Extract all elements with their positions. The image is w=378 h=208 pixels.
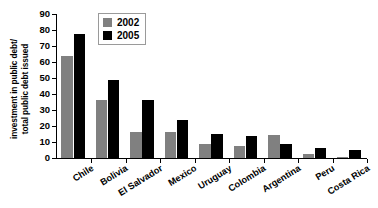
y-tick-label: 90 [22,9,50,19]
x-axis-label-argentina: Argentina [260,163,302,194]
y-tick-label: 70 [22,41,50,51]
y-tick-label: 0 [22,153,50,163]
y-tick-mark [52,46,56,47]
y-tick-mark [52,94,56,95]
x-tick-mark [91,159,92,163]
y-tick-mark [52,30,56,31]
y-tick-mark [52,142,56,143]
legend-item-2002: 2002 [103,16,139,29]
y-tick-mark [52,126,56,127]
bar-2005-el-salvador [142,100,154,158]
y-tick-mark [52,78,56,79]
bar-2002-el-salvador [130,132,142,158]
x-axis-label-chile: Chile [71,163,95,183]
y-tick-label: 80 [22,25,50,35]
bar-2005-costa-rica [349,150,361,158]
bar-2002-argentina [268,135,280,158]
x-tick-mark [333,159,334,163]
x-axis-label-mexico: Mexico [167,163,199,188]
y-tick-label: 40 [22,89,50,99]
legend-swatch-2002-icon [103,18,112,27]
legend-item-2005: 2005 [103,29,139,42]
legend: 2002 2005 [98,13,146,45]
x-axis-line [56,158,367,159]
y-tick-mark [52,110,56,111]
y-tick-mark [52,62,56,63]
bar-2005-colombia [246,136,258,158]
x-axis-label-peru: Peru [314,163,337,182]
bar-2002-bolivia [96,100,108,158]
bar-2002-mexico [165,132,177,158]
y-tick-label: 30 [22,105,50,115]
bar-2002-uruguay [199,144,211,158]
y-tick-label: 60 [22,57,50,67]
x-tick-mark [264,159,265,163]
y-tick-label: 20 [22,121,50,131]
x-tick-mark [126,159,127,163]
y-tick-mark [52,158,56,159]
x-tick-mark [229,159,230,163]
legend-swatch-2005-icon [103,31,112,40]
x-axis-label-colombia: Colombia [227,163,268,194]
bar-2005-argentina [280,144,292,158]
bar-2005-bolivia [108,80,120,158]
bar-2002-peru [303,154,315,158]
y-tick-label: 50 [22,73,50,83]
x-tick-mark [160,159,161,163]
legend-label-2005: 2005 [117,31,139,41]
bar-2002-chile [61,56,73,158]
legend-label-2002: 2002 [117,18,139,28]
x-tick-mark [298,159,299,163]
bar-2005-mexico [177,120,189,158]
bar-2002-costa-rica [337,157,349,158]
bar-2005-chile [74,34,86,158]
y-axis-title-line1: investment in public debt/ [9,9,20,169]
y-tick-mark [52,14,56,15]
y-tick-label: 10 [22,137,50,147]
x-tick-mark [195,159,196,163]
bar-2002-colombia [234,146,246,158]
bar-2005-uruguay [211,134,223,158]
bar-2005-peru [315,148,327,158]
bar-chart: investment in public debt/ total public … [0,0,378,208]
x-tick-mark [367,159,368,163]
